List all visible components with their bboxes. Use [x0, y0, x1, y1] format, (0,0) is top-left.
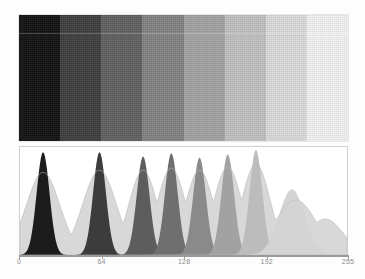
wedge-band-8: [307, 15, 348, 141]
histogram-figure: 064128192255: [0, 0, 365, 279]
axis-tick-label-192: 192: [261, 258, 273, 265]
axis-tick-label-128: 128: [178, 258, 190, 265]
grayscale-step-wedge: [19, 15, 348, 141]
axis-tick-label-0: 0: [17, 258, 21, 265]
wedge-band-3: [101, 15, 142, 141]
wedge-band-7: [266, 15, 307, 141]
intensity-axis: [19, 255, 348, 257]
histogram-canvas: [20, 147, 347, 255]
histogram-plot-area: [19, 146, 348, 256]
wedge-band-1: [19, 15, 60, 141]
axis-tick-label-64: 64: [98, 258, 106, 265]
wedge-band-4: [142, 15, 183, 141]
wedge-band-6: [225, 15, 266, 141]
wedge-band-2: [60, 15, 101, 141]
axis-tick-label-255: 255: [342, 258, 354, 265]
wedge-band-5: [184, 15, 225, 141]
